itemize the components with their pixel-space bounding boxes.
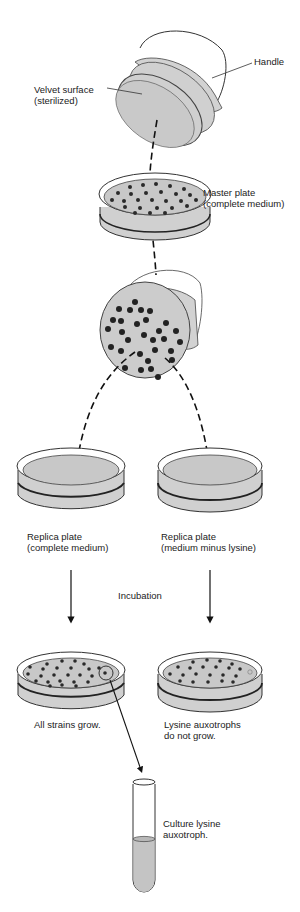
result-all-grow-label: All strains grow.	[34, 719, 101, 730]
replica-plating-diagram	[0, 0, 300, 912]
master-plate-icon	[99, 173, 211, 240]
velvet-surface-label: Velvet surface (sterilized)	[34, 84, 94, 106]
isolate-colony-arrow	[110, 680, 141, 770]
result-plate-complete-icon	[17, 652, 125, 709]
incubation-label: Incubation	[118, 590, 162, 601]
handle-label: Handle	[254, 56, 284, 67]
replica-plate-complete-icon	[17, 448, 125, 509]
replica-plate-minus-lysine-icon	[158, 448, 262, 512]
velvet-imprint-icon	[100, 270, 202, 380]
master-plate-label: Master plate (complete medium)	[203, 187, 284, 209]
result-plate-minus-lysine-icon	[158, 652, 262, 712]
result-auxotrophs-label: Lysine auxotrophs do not grow.	[164, 719, 241, 741]
test-tube-label: Culture lysine auxotroph.	[163, 818, 221, 840]
replica-plate-complete-label: Replica plate (complete medium)	[27, 531, 108, 553]
handle-leader-line	[212, 63, 252, 78]
velvet-block-icon	[103, 31, 227, 161]
test-tube-icon	[133, 779, 155, 892]
replica-plate-minus-lysine-label: Replica plate (medium minus lysine)	[161, 531, 256, 553]
